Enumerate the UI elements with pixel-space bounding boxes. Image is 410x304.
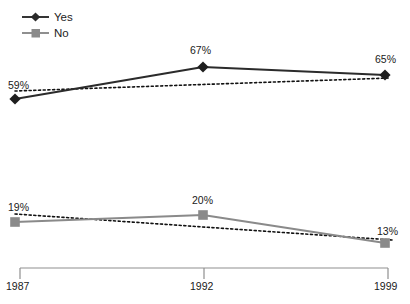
data-point-yes-1992[interactable] [197,62,208,73]
chart-container: Yes No 59% 67% 65% 19% 20% [0,0,410,304]
x-axis: 1987 1992 1999 [6,268,398,292]
diamond-marker-icon [31,13,40,22]
data-point-no-1999[interactable] [380,238,390,248]
data-label-no-1999: 13% [377,225,398,237]
chart-legend: Yes No [22,11,73,39]
data-label-yes-1992: 67% [190,44,211,56]
legend-label-no: No [54,27,69,39]
x-axis-label-1999: 1999 [374,280,398,292]
legend-label-yes: Yes [54,11,73,23]
data-label-yes-1999: 65% [375,53,396,65]
legend-item-yes[interactable]: Yes [22,11,73,23]
legend-item-no[interactable]: No [22,27,69,39]
square-marker-icon [32,29,41,38]
data-label-no-1987: 19% [8,201,29,213]
x-axis-label-1992: 1992 [190,280,214,292]
data-label-no-1992: 20% [192,194,213,206]
series-line-yes [15,67,385,99]
data-point-yes-1987[interactable] [9,94,20,105]
line-chart: Yes No 59% 67% 65% 19% 20% [0,0,410,304]
x-axis-label-1987: 1987 [6,280,30,292]
data-point-no-1992[interactable] [198,210,208,220]
data-point-no-1987[interactable] [10,217,20,227]
data-label-yes-1987: 59% [8,79,29,91]
